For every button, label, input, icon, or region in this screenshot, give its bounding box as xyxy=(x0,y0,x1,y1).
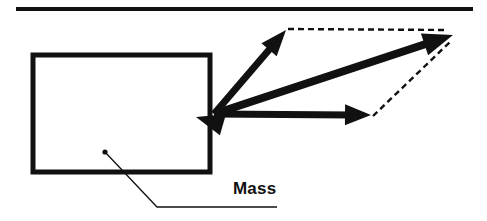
parallelogram-dashed-right xyxy=(373,42,450,116)
mass-label: Mass xyxy=(233,180,276,197)
force-diagram-figure: Mass xyxy=(0,0,487,221)
parallelogram-dashed-top xyxy=(288,29,447,30)
mass-rectangle xyxy=(33,55,210,172)
mass-leader-dot xyxy=(102,149,107,154)
